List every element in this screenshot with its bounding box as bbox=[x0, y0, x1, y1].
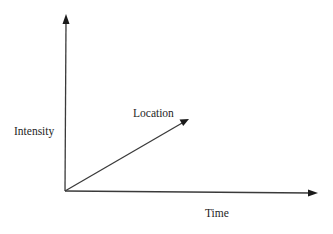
location-label: Location bbox=[133, 107, 174, 119]
intensity-axis-line bbox=[65, 22, 66, 191]
intensity-axis bbox=[63, 14, 70, 191]
location-axis-line bbox=[65, 123, 183, 192]
time-axis bbox=[65, 190, 318, 197]
time-axis-line bbox=[65, 191, 311, 193]
arrow-diagonal-icon bbox=[180, 119, 190, 126]
time-label: Time bbox=[205, 207, 229, 219]
arrow-right-icon bbox=[308, 190, 318, 197]
intensity-label: Intensity bbox=[14, 125, 54, 138]
arrow-up-icon bbox=[63, 14, 70, 24]
location-axis bbox=[65, 119, 189, 191]
axes-diagram: Intensity Time Location bbox=[0, 0, 333, 234]
